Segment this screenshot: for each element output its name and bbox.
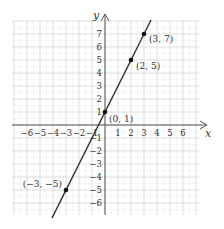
y-tick-label: −3 <box>89 159 102 169</box>
x-tick-label: 4 <box>154 128 159 138</box>
data-point <box>142 32 147 37</box>
x-tick-label: 6 <box>180 128 185 138</box>
x-tick-label: 3 <box>141 128 146 138</box>
x-tick-label: −2 <box>73 128 86 138</box>
x-tick-label: 1 <box>115 128 120 138</box>
y-tick-label: −2 <box>89 146 102 156</box>
y-tick-label: −4 <box>89 172 102 182</box>
x-tick-label: −3 <box>60 128 73 138</box>
x-tick-label: −6 <box>21 128 34 138</box>
data-point <box>64 188 69 193</box>
x-tick-label: 5 <box>167 128 172 138</box>
x-tick-label: −5 <box>34 128 47 138</box>
y-axis-label: y <box>92 9 100 22</box>
coordinate-plane: x y −6−5−4−3−2−11234567654321−1−2−3−4−5−… <box>0 0 224 229</box>
point-label: (0, 1) <box>109 114 133 124</box>
y-tick-label: 3 <box>97 81 102 91</box>
point-label: (−3, −5) <box>23 179 62 189</box>
data-point <box>129 58 134 63</box>
point-label: (2, 5) <box>136 61 160 71</box>
y-tick-label: 2 <box>97 94 102 104</box>
x-axis-label: x <box>205 127 212 140</box>
x-tick-label: 2 <box>128 128 133 138</box>
y-tick-label: 4 <box>97 68 102 78</box>
y-tick-label: 6 <box>97 42 102 52</box>
y-tick-label: 7 <box>97 29 102 39</box>
data-point <box>103 110 108 115</box>
point-label: (3, 7) <box>149 34 173 44</box>
y-tick-label: −5 <box>89 185 102 195</box>
y-tick-label: 5 <box>97 55 102 65</box>
y-tick-label: 1 <box>97 107 102 117</box>
y-tick-label: −6 <box>89 198 102 208</box>
x-tick-label: −4 <box>47 128 60 138</box>
